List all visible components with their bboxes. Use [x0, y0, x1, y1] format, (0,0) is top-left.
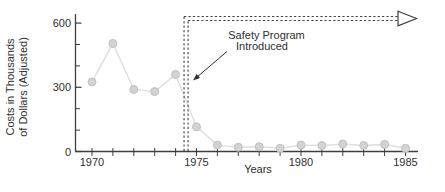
x-axis-title: Years	[244, 163, 272, 175]
data-point	[276, 144, 284, 152]
data-point	[360, 142, 368, 150]
data-point	[234, 143, 242, 151]
data-point	[213, 141, 221, 149]
x-tick-label: 1975	[184, 156, 208, 168]
data-point	[381, 140, 389, 148]
x-tick-label: 1970	[80, 156, 104, 168]
open-arrowhead-icon	[398, 11, 417, 26]
annotation-leader-line	[197, 52, 228, 78]
data-point	[339, 140, 347, 148]
data-line	[92, 43, 406, 148]
y-axis-title-line2: of Dollars (Adjusted)	[17, 37, 29, 137]
y-tick-label: 600	[53, 17, 71, 29]
data-point	[193, 123, 201, 131]
safety-program-line-chart: 03006001970197519801985Safety ProgramInt…	[0, 0, 445, 192]
data-point	[172, 70, 180, 78]
annotation-text-line2: Introduced	[236, 40, 288, 52]
data-point	[130, 85, 138, 93]
y-tick-label: 300	[53, 81, 71, 93]
data-point	[402, 144, 410, 152]
figure-canvas: 03006001970197519801985Safety ProgramInt…	[0, 0, 445, 192]
y-tick-label: 0	[65, 146, 71, 158]
data-point	[88, 78, 96, 86]
data-point	[297, 141, 305, 149]
data-point	[255, 143, 263, 151]
x-tick-label: 1985	[393, 156, 417, 168]
y-axis-title-line1: Costs in Thousands	[4, 38, 16, 136]
data-point	[151, 88, 159, 96]
data-point	[109, 39, 117, 47]
x-tick-label: 1980	[289, 156, 313, 168]
data-point	[318, 142, 326, 150]
